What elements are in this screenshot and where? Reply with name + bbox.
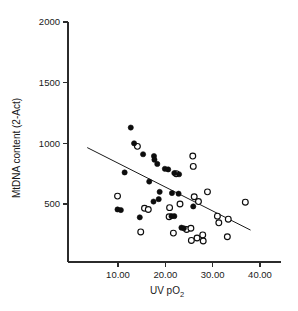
y-tick-label-1000: 1000 [39, 138, 60, 149]
data-point [176, 172, 181, 177]
x-axis-title: UV pO2 [150, 285, 184, 299]
data-point [156, 197, 161, 202]
data-point [172, 214, 177, 219]
data-point [181, 226, 186, 231]
x-tick-label-30: 30.00 [201, 269, 225, 280]
data-point [225, 216, 231, 222]
x-axis-ticks [118, 262, 260, 267]
data-point [115, 193, 121, 199]
data-point [138, 229, 144, 235]
data-point [196, 199, 202, 205]
data-series-filled-circles [115, 125, 196, 231]
data-point [176, 191, 181, 196]
data-point [122, 170, 127, 175]
data-point [166, 167, 171, 172]
data-point [169, 190, 174, 195]
data-point [137, 215, 142, 220]
y-tick-label-500: 500 [44, 198, 60, 209]
data-point [128, 125, 133, 130]
data-point [216, 220, 222, 226]
data-point [190, 153, 196, 159]
data-point [157, 189, 162, 194]
data-point [242, 199, 248, 205]
data-point [224, 234, 230, 240]
scatter-plot-figure: 500100015002000 10.0020.0030.0040.00 MtD… [0, 0, 298, 311]
data-point [205, 189, 211, 195]
data-point [190, 163, 196, 169]
y-tick-label-1500: 1500 [39, 77, 60, 88]
data-point [188, 225, 194, 231]
y-axis-ticks [63, 22, 68, 204]
data-point [200, 238, 206, 244]
data-point [155, 161, 160, 166]
data-point [147, 179, 152, 184]
x-tick-label-40: 40.00 [248, 269, 272, 280]
data-point [140, 152, 145, 157]
data-point [194, 235, 200, 241]
x-tick-label-20: 20.00 [153, 269, 177, 280]
y-tick-label-2000: 2000 [39, 16, 60, 27]
data-point [191, 204, 196, 209]
data-point [200, 232, 206, 238]
plot-canvas: 500100015002000 10.0020.0030.0040.00 MtD… [0, 0, 298, 311]
data-point [145, 207, 151, 213]
y-axis-tick-labels: 500100015002000 [39, 16, 60, 209]
y-axis-title: MtDNA content (2-Act) [11, 98, 22, 198]
data-point [188, 238, 194, 244]
x-axis-title-subscript: 2 [180, 290, 184, 299]
data-point [131, 141, 136, 146]
data-point [172, 170, 177, 175]
data-point [215, 213, 221, 219]
data-point [177, 201, 183, 207]
data-point [170, 230, 176, 236]
data-point [167, 205, 173, 211]
x-axis-tick-labels: 10.0020.0030.0040.00 [106, 269, 272, 280]
data-point [118, 207, 123, 212]
x-axis-title-base: UV pO [150, 285, 180, 296]
data-point [151, 199, 156, 204]
data-point [191, 194, 197, 200]
x-tick-label-10: 10.00 [106, 269, 130, 280]
